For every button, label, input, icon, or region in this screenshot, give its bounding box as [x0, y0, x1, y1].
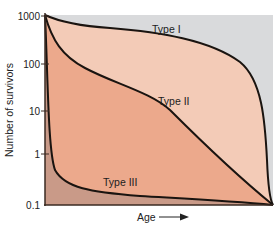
y-tick-label-1: 1: [34, 149, 40, 160]
y-tick-label-1000: 1000: [18, 11, 41, 22]
survivorship-chart: 1000 100 10 1 0.1 Type I Type II Type II…: [0, 0, 278, 228]
x-axis-arrow-icon: [159, 214, 189, 221]
y-tick-label-0-1: 0.1: [26, 200, 40, 211]
y-tick-label-100: 100: [23, 59, 40, 70]
y-tick-label-10: 10: [29, 106, 41, 117]
x-axis-title: Age: [137, 211, 156, 223]
y-axis-title: Number of survivors: [3, 63, 15, 157]
label-type-iii: Type III: [103, 176, 137, 188]
label-type-ii: Type II: [158, 95, 190, 107]
label-type-i: Type I: [152, 23, 181, 35]
